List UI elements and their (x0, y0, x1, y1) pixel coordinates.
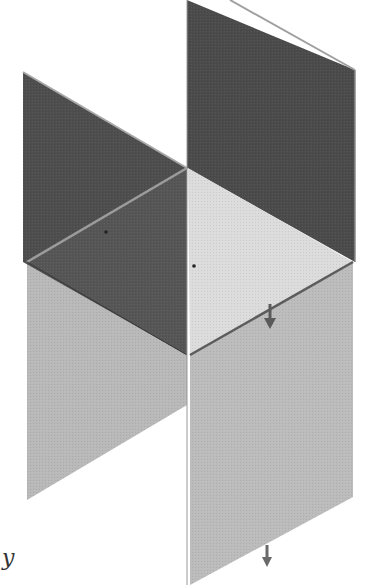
marker-dot-center (192, 264, 196, 268)
axis-label-y: y (2, 545, 14, 570)
planes-diagram (0, 0, 365, 585)
diagram-canvas: y (0, 0, 365, 585)
normal-arrow-lower-icon (262, 545, 272, 567)
marker-dot-left (104, 230, 108, 234)
